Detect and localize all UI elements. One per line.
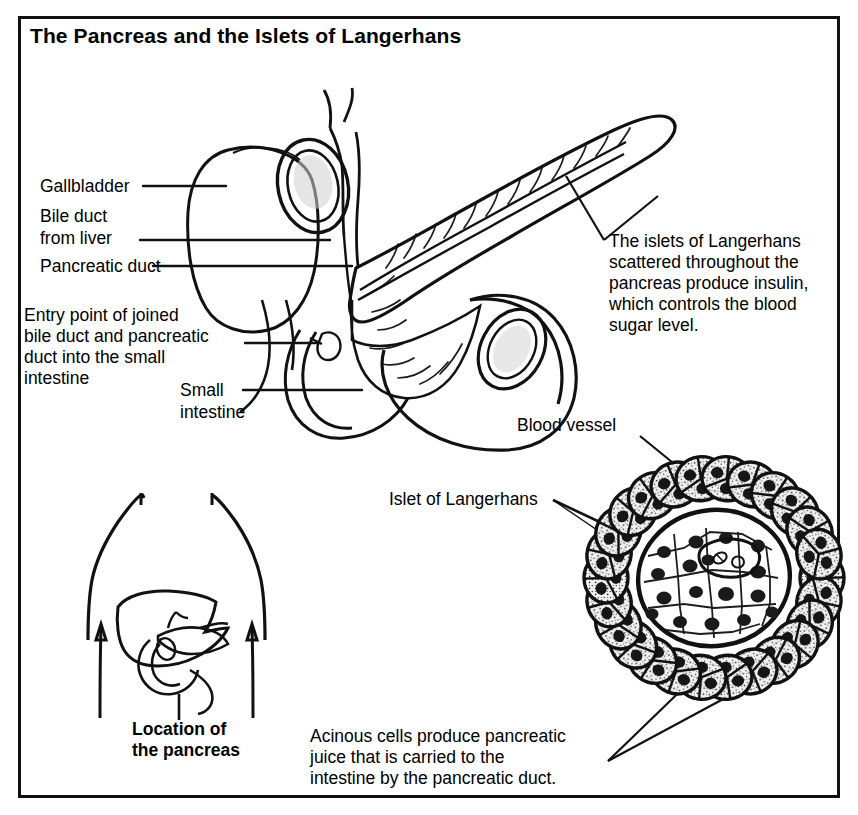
figure-border [18, 16, 840, 798]
note-acinous-line1: Acinous cells produce pancreatic [310, 726, 566, 748]
label-entry-point-line1: Entry point of joined [24, 305, 179, 326]
label-gallbladder: Gallbladder [40, 176, 130, 197]
label-entry-point-line2: bile duct and pancreatic [24, 326, 209, 347]
label-blood-vessel: Blood vessel [517, 415, 616, 436]
note-acinous-line3: intestine by the pancreatic duct. [310, 768, 556, 790]
label-small-intestine-line2: intestine [180, 402, 245, 423]
note-islets-line5: sugar level. [609, 315, 699, 337]
label-small-intestine-line1: Small [180, 380, 224, 401]
label-bile-duct-line2: from liver [40, 228, 112, 249]
note-islets-line4: which controls the blood [609, 294, 797, 316]
caption-location-line1: Location of [132, 719, 226, 740]
note-acinous-line2: juice that is carried to the [310, 747, 505, 769]
note-islets-line2: scattered throughout the [609, 252, 799, 274]
figure-title: The Pancreas and the Islets of Langerhan… [30, 24, 461, 48]
note-islets-line3: pancreas produce insulin, [609, 273, 808, 295]
figure-panel: The Pancreas and the Islets of Langerhan… [0, 0, 858, 815]
label-bile-duct-line1: Bile duct [40, 206, 107, 227]
label-islet-of-langerhans: Islet of Langerhans [389, 489, 538, 510]
label-pancreatic-duct: Pancreatic duct [40, 256, 161, 277]
label-entry-point-line4: intestine [24, 368, 89, 389]
label-entry-point-line3: duct into the small [24, 347, 165, 368]
note-islets-line1: The islets of Langerhans [609, 231, 801, 253]
caption-location-line2: the pancreas [132, 740, 240, 761]
